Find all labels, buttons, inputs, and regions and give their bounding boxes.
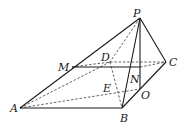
- label-E: E: [102, 82, 111, 95]
- label-O: O: [141, 89, 150, 102]
- label-B: B: [119, 112, 128, 125]
- pyramid-diagram: P A B C D M N E O: [0, 0, 186, 129]
- label-D: D: [100, 51, 110, 64]
- label-M: M: [57, 61, 70, 74]
- edge-P-C: [140, 18, 166, 62]
- edge-P-B: [122, 18, 140, 108]
- edge-A-O: [20, 89, 140, 108]
- vertex-labels: P A B C D M N E O: [9, 7, 178, 125]
- label-N: N: [129, 73, 140, 86]
- edge-A-P: [20, 18, 140, 108]
- label-A: A: [9, 102, 18, 115]
- label-C: C: [169, 56, 178, 69]
- label-P: P: [132, 7, 141, 20]
- edge-D-B: [110, 62, 122, 108]
